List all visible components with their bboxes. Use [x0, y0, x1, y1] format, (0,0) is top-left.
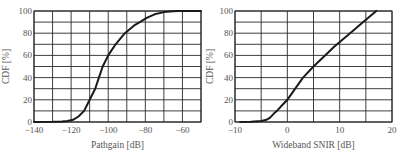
snir-cdf-chart: 020406080100−1001020Wideband SNIR [dB]CD… — [204, 0, 409, 157]
y-tick-label: 40 — [23, 73, 33, 83]
x-ticks: −1001020 — [228, 125, 397, 135]
y-tick-label: 80 — [224, 28, 234, 38]
y-tick-label: 100 — [220, 6, 234, 16]
grid — [34, 11, 201, 122]
y-tick-label: 100 — [19, 6, 33, 16]
x-tick-label: −120 — [62, 125, 81, 135]
x-tick-label: 20 — [388, 125, 398, 135]
x-tick-label: −100 — [99, 125, 118, 135]
y-tick-label: 60 — [23, 50, 33, 60]
y-tick-label: 60 — [224, 50, 234, 60]
x-axis-label: Wideband SNIR [dB] — [272, 140, 354, 150]
y-tick-label: 20 — [23, 95, 33, 105]
y-axis-label: CDF [%] — [1, 49, 11, 84]
x-ticks: −140−120−100−80−60 — [25, 125, 190, 135]
x-tick-label: −80 — [138, 125, 153, 135]
x-tick-label: 0 — [285, 125, 290, 135]
x-tick-label: −60 — [175, 125, 190, 135]
y-tick-label: 80 — [23, 28, 33, 38]
x-tick-label: 10 — [335, 125, 345, 135]
y-tick-label: 40 — [224, 73, 234, 83]
x-tick-label: −140 — [25, 125, 44, 135]
y-axis-label: CDF [%] — [205, 49, 215, 84]
y-ticks: 020406080100 — [19, 6, 33, 127]
x-tick-label: −10 — [228, 125, 243, 135]
pathgain-cdf-chart: 020406080100−140−120−100−80−60Pathgain [… — [0, 0, 205, 157]
x-axis-label: Pathgain [dB] — [91, 140, 144, 150]
y-tick-label: 20 — [224, 95, 234, 105]
y-ticks: 020406080100 — [220, 6, 234, 127]
